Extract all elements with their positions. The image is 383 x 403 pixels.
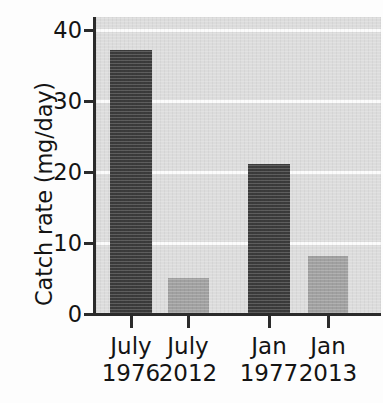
y-tick-label-30: 30 bbox=[40, 90, 82, 113]
x-tick-label-line1: July bbox=[152, 333, 224, 360]
plot-area bbox=[96, 17, 381, 313]
bar-july-2012 bbox=[168, 278, 209, 314]
x-tick-label-line2: 2013 bbox=[292, 360, 364, 387]
x-tick-label-jan-2013: Jan 2013 bbox=[292, 333, 364, 386]
y-tick-label-0: 0 bbox=[40, 303, 82, 326]
x-tick-mark-july-1976 bbox=[130, 316, 133, 328]
y-tick-label-20: 20 bbox=[40, 161, 82, 184]
gridline-40 bbox=[96, 29, 381, 32]
bar-jan-2013 bbox=[308, 256, 348, 313]
x-tick-label-line2: 2012 bbox=[152, 360, 224, 387]
bar-july-1976 bbox=[110, 50, 152, 313]
bar-jan-1977 bbox=[248, 164, 290, 313]
x-tick-mark-jan-1977 bbox=[268, 316, 271, 328]
y-tick-label-10: 10 bbox=[40, 232, 82, 255]
x-tick-mark-july-2012 bbox=[187, 316, 190, 328]
x-tick-mark-jan-2013 bbox=[327, 316, 330, 328]
y-axis-line bbox=[93, 17, 96, 316]
x-tick-label-july-2012: July 2012 bbox=[152, 333, 224, 386]
bar-chart-figure: Catch rate (mg/day) 40 30 20 10 0 July 1… bbox=[0, 0, 383, 403]
y-tick-label-40: 40 bbox=[40, 19, 82, 42]
x-axis-line bbox=[93, 313, 381, 316]
x-tick-label-line1: Jan bbox=[292, 333, 364, 360]
y-tick-label-group: 40 30 20 10 0 bbox=[40, 0, 82, 403]
